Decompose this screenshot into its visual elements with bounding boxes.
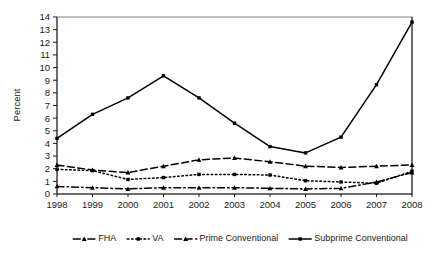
x-tick-label: 2001 bbox=[153, 199, 174, 210]
y-tick-label: 5 bbox=[45, 125, 50, 136]
y-tick-label: 4 bbox=[45, 138, 50, 149]
y-tick-label: 7 bbox=[45, 100, 50, 111]
x-tick-label: 1998 bbox=[46, 199, 67, 210]
y-tick-label: 0 bbox=[45, 188, 50, 199]
data-point bbox=[375, 182, 378, 185]
data-point bbox=[410, 162, 415, 166]
data-point bbox=[304, 151, 307, 154]
data-point bbox=[339, 180, 342, 183]
data-point bbox=[339, 135, 342, 138]
data-point bbox=[55, 137, 58, 140]
y-tick-label: 14 bbox=[39, 11, 50, 22]
x-tick-label: 2005 bbox=[295, 199, 316, 210]
data-point bbox=[375, 83, 378, 86]
y-tick-label: 10 bbox=[39, 62, 50, 73]
series-va bbox=[55, 168, 413, 185]
y-tick-label: 13 bbox=[39, 24, 50, 35]
y-tick-label: 1 bbox=[45, 176, 50, 187]
data-point bbox=[233, 122, 236, 125]
data-point bbox=[162, 176, 165, 179]
y-tick-label: 3 bbox=[45, 150, 50, 161]
series-prime-conventional bbox=[55, 156, 415, 175]
x-tick-label: 2003 bbox=[224, 199, 245, 210]
data-point bbox=[162, 74, 165, 77]
legend-label: FHA bbox=[98, 233, 116, 243]
legend-marker-icon bbox=[298, 237, 301, 240]
legend-item-subprime-conventional[interactable]: Subprime Conventional bbox=[289, 233, 408, 243]
legend-label: VA bbox=[152, 233, 163, 243]
data-series-group bbox=[55, 20, 415, 191]
chart-container: 01234567891011121314 1998199920002001200… bbox=[0, 0, 435, 255]
series-line bbox=[57, 22, 412, 153]
data-point bbox=[197, 185, 202, 189]
y-tick-label: 12 bbox=[39, 37, 50, 48]
legend-item-va[interactable]: VA bbox=[127, 233, 163, 243]
x-tick-label: 2002 bbox=[188, 199, 209, 210]
x-tick-label: 1999 bbox=[82, 199, 103, 210]
y-tick-label: 6 bbox=[45, 113, 50, 124]
series-subprime-conventional bbox=[55, 20, 413, 154]
legend-marker-icon bbox=[137, 237, 140, 240]
y-tick-label: 9 bbox=[45, 75, 50, 86]
data-point bbox=[55, 168, 58, 171]
legend-label: Prime Conventional bbox=[200, 233, 279, 243]
legend-label: Subprime Conventional bbox=[314, 233, 408, 243]
data-point bbox=[91, 113, 94, 116]
x-tick-label: 2004 bbox=[259, 199, 280, 210]
data-point bbox=[304, 179, 307, 182]
x-tick-label: 2000 bbox=[117, 199, 138, 210]
x-tick-label: 2006 bbox=[330, 199, 351, 210]
series-line bbox=[57, 158, 412, 173]
y-tick-label: 2 bbox=[45, 163, 50, 174]
y-tick-label: 8 bbox=[45, 87, 50, 98]
y-axis-ticks: 01234567891011121314 bbox=[39, 11, 57, 199]
x-tick-label: 2007 bbox=[366, 199, 387, 210]
data-point bbox=[410, 20, 413, 23]
legend-item-prime-conventional[interactable]: Prime Conventional bbox=[175, 233, 279, 243]
chart-legend: FHAVAPrime ConventionalSubprime Conventi… bbox=[73, 233, 407, 243]
data-point bbox=[126, 178, 129, 181]
data-point bbox=[126, 96, 129, 99]
data-point bbox=[197, 173, 200, 176]
data-point bbox=[233, 173, 236, 176]
y-tick-label: 11 bbox=[40, 49, 50, 60]
line-chart: 01234567891011121314 1998199920002001200… bbox=[0, 0, 435, 255]
data-point bbox=[268, 173, 271, 176]
y-axis-title-label: Percent bbox=[11, 88, 22, 121]
data-point bbox=[410, 170, 413, 173]
data-point bbox=[268, 145, 271, 148]
y-axis-title: Percent bbox=[11, 88, 22, 121]
x-axis-ticks: 1998199920002001200220032004200520062007… bbox=[46, 194, 422, 210]
x-tick-label: 2008 bbox=[401, 199, 422, 210]
legend-item-fha[interactable]: FHA bbox=[73, 233, 116, 243]
data-point bbox=[197, 96, 200, 99]
